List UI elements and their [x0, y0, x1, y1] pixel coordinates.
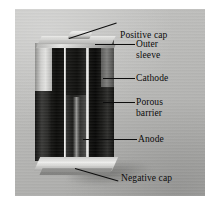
anode-upper-region: [66, 41, 86, 95]
photograph-plate: Positive cap Outer sleeve Cathode Porous…: [15, 9, 205, 196]
label-porous-barrier-line-2: barrier: [136, 108, 163, 119]
battery-cutaway-figure: Positive cap Outer sleeve Cathode Porous…: [0, 0, 218, 210]
label-outer-sleeve: Outer sleeve: [136, 39, 160, 60]
label-negative-cap: Negative cap: [121, 173, 172, 184]
label-cathode-line-1: Cathode: [136, 73, 168, 84]
label-anode: Anode: [138, 134, 164, 145]
leader-line-outer-sleeve: [95, 44, 135, 45]
label-outer-sleeve-line-1: Outer: [136, 39, 160, 50]
label-outer-sleeve-line-2: sleeve: [136, 50, 160, 61]
leader-line-anode: [83, 139, 137, 140]
leader-line-porous-barrier: [103, 102, 135, 103]
leader-line-cathode: [103, 78, 135, 79]
outer-sleeve-right-black-wrap: [101, 87, 114, 163]
label-cathode: Cathode: [136, 73, 168, 84]
outer-sleeve-left-black-wrap: [35, 91, 52, 161]
label-porous-barrier-line-1: Porous: [136, 97, 163, 108]
label-porous-barrier: Porous barrier: [136, 97, 163, 118]
label-anode-line-1: Anode: [138, 134, 164, 145]
cathode-left-wedge: [50, 43, 64, 165]
label-negative-cap-line-1: Negative cap: [121, 173, 172, 184]
porous-barrier-strip-right: [86, 40, 89, 165]
